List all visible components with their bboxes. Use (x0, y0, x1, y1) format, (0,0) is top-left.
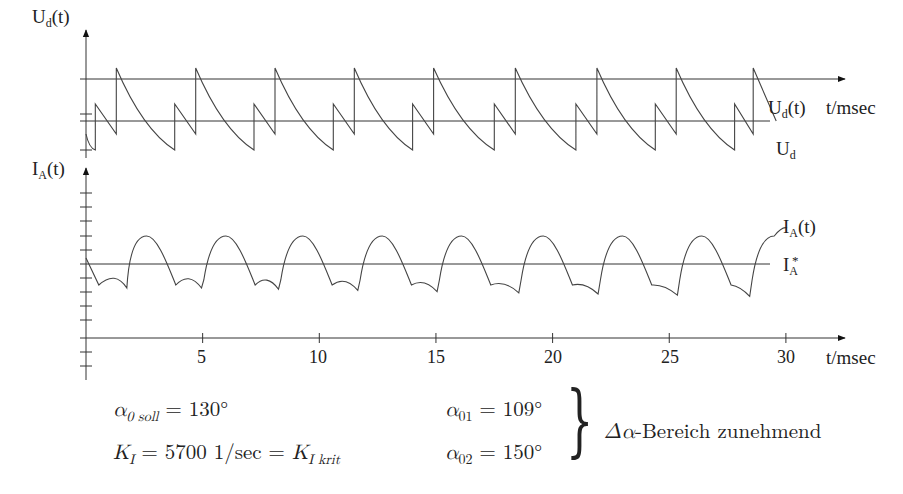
ud-t-curve (86, 68, 776, 150)
alpha02-eq: α02 = 150° (445, 440, 542, 465)
delta-alpha-range-text: Δα-Bereich zunehmend (604, 419, 821, 444)
ia-t-curve (86, 228, 787, 297)
alpha01-eq: α01 = 109° (445, 397, 542, 422)
x-tick-10: 10 (309, 347, 327, 368)
x-tick-5: 5 (197, 347, 206, 368)
ki-eq: KI = 5700 1/sec = KI krit (113, 440, 340, 465)
upper-x-unit-label: t/msec (826, 97, 876, 119)
ud-t-curve-label: Ud(t) (768, 97, 806, 119)
alpha-soll-eq: α0 soll = 130° (113, 397, 228, 422)
lower-x-unit-label: t/msec (826, 347, 876, 369)
x-tick-20: 20 (544, 347, 562, 368)
ud-mean-label: Ud (776, 138, 796, 160)
grouping-brace: } (566, 380, 593, 460)
upper-y-axis-label: Ud(t) (32, 6, 70, 28)
x-tick-25: 25 (661, 347, 679, 368)
ia-star-label: IA* (783, 254, 799, 276)
x-tick-30: 30 (777, 347, 795, 368)
lower-y-axis-label: IA(t) (32, 158, 65, 180)
ia-t-curve-label: IA(t) (783, 216, 816, 238)
x-tick-15: 15 (427, 347, 445, 368)
